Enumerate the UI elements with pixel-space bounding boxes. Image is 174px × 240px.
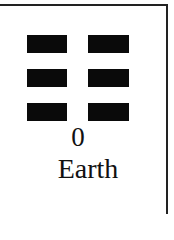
line-1-right-segment [88,35,129,53]
line-3-left-segment [27,103,67,121]
line-3-right-segment [88,103,129,121]
line-2-left-segment [27,69,67,87]
line-1-left-segment [27,35,67,53]
line-2-right-segment [88,69,129,87]
trigram-name: Earth [0,153,174,185]
trigram-number: 0 [0,122,156,152]
